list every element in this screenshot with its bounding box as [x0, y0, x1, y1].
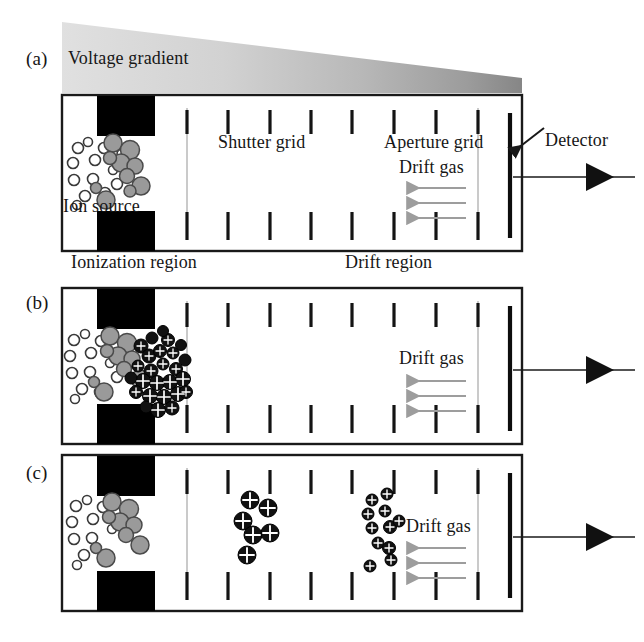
diagram-canvas	[0, 0, 644, 642]
aperture-grid-label: Aperture grid	[384, 132, 483, 153]
panel-a-electrode-top	[97, 96, 155, 136]
panel-a-output-arrow	[513, 163, 635, 191]
drift-gas-label-a: Drift gas	[399, 157, 464, 178]
shutter-grid-label: Shutter grid	[218, 132, 305, 153]
panel-a-group	[62, 95, 635, 251]
voltage-gradient-label: Voltage gradient	[68, 48, 189, 69]
panel-a-electrode-bottom	[97, 211, 155, 251]
panel-c-electrode-bottom	[97, 571, 155, 611]
panel-c-electrode-top	[97, 456, 155, 496]
ion-mobility-spectrometer-figure: (a) Voltage gradient Shutter grid Apertu…	[0, 0, 644, 642]
drift-region-label: Drift region	[345, 252, 432, 273]
panel-c-group	[62, 455, 635, 611]
drift-gas-label-b: Drift gas	[399, 348, 464, 369]
detector-label: Detector	[545, 130, 608, 151]
panel-b-group	[62, 288, 635, 444]
panel-b-label: (b)	[26, 292, 48, 314]
panel-b-electrode-top	[97, 289, 155, 329]
drift-gas-label-c: Drift gas	[406, 516, 471, 537]
panel-c-output-arrow	[513, 523, 635, 551]
ionization-region-label: Ionization region	[71, 252, 197, 273]
panel-a-label: (a)	[26, 48, 47, 70]
ion-source-label: Ion source	[63, 196, 140, 217]
panel-b-output-arrow	[513, 356, 635, 384]
panel-c-label: (c)	[26, 462, 47, 484]
